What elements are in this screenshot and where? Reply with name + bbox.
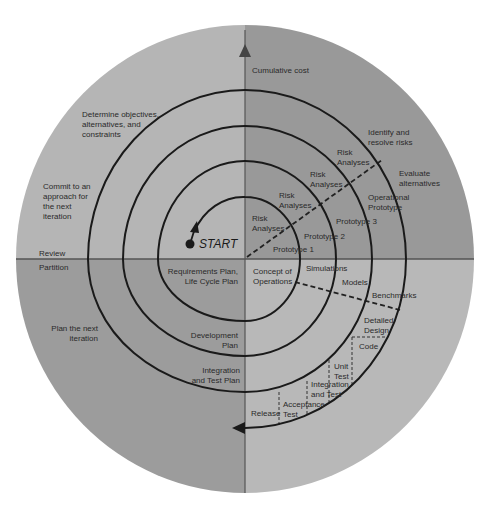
- risk-analyses-3: Risk Analyses: [310, 170, 342, 190]
- quadrant-bottom-right: [245, 259, 492, 511]
- start-label: START: [199, 238, 237, 250]
- models-label: Models: [342, 278, 368, 288]
- determine-objectives-label: Determine objectives, alternatives, and …: [82, 110, 159, 140]
- detailed-design-label: Detailed Design: [364, 316, 393, 336]
- prototype-3-label: Prototype 3: [336, 217, 377, 227]
- development-plan-label: Development Plan: [170, 331, 238, 351]
- risk-analyses-4: Risk Analyses: [337, 148, 369, 168]
- integration-test-plan-label: Integration and Test Plan: [170, 366, 240, 386]
- quadrant-backgrounds: [0, 0, 492, 511]
- spiral-model-diagram: [0, 0, 492, 511]
- operational-prototype-label: Operational Prototype: [368, 193, 409, 213]
- plan-next-iteration-label: Plan the next iteration: [40, 324, 98, 344]
- release-label: Release: [251, 409, 280, 419]
- concept-of-operations-label: Concept of Operations: [253, 267, 292, 287]
- code-label: Code: [359, 342, 378, 352]
- identify-risks-label: Identify and resolve risks: [368, 128, 412, 148]
- cumulative-cost-label: Cumulative cost: [252, 66, 309, 76]
- prototype-2-label: Prototype 2: [304, 232, 345, 242]
- unit-test-label: Unit Test: [334, 362, 349, 382]
- risk-analyses-1: Risk Analyses: [252, 214, 284, 234]
- benchmarks-label: Benchmarks: [372, 291, 416, 301]
- commit-approach-label: Commit to an approach for the next itera…: [43, 182, 91, 222]
- simulations-label: Simulations: [306, 264, 347, 274]
- risk-analyses-2: Risk Analyses: [279, 191, 311, 211]
- prototype-1-label: Prototype 1: [273, 245, 314, 255]
- review-label: Review: [39, 249, 65, 259]
- requirements-plan-label: Requirements Plan, Life Cycle Plan: [150, 267, 238, 287]
- acceptance-test-label: Acceptance Test: [283, 400, 325, 420]
- evaluate-alternatives-label: Evaluate alternatives: [399, 169, 440, 189]
- partition-label: Partition: [39, 263, 68, 273]
- integration-and-test-label: Integration and Test: [311, 380, 349, 400]
- start-dot-icon: [186, 240, 195, 249]
